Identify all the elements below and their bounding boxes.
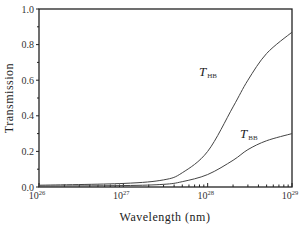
plot-frame <box>39 9 292 187</box>
x-tick-label: 1026 <box>29 189 46 201</box>
y-tick-label: 0.8 <box>22 39 35 50</box>
label-t-bb: TBB <box>240 126 258 142</box>
x-tick-label: 1028 <box>197 189 214 201</box>
curves <box>39 32 292 186</box>
label-t-hb: THB <box>199 64 217 80</box>
y-tick-label: 0.2 <box>22 146 35 157</box>
x-tick-label: 1029 <box>282 189 299 201</box>
y-axis-title: Transmission <box>2 63 16 133</box>
curve-t-hb <box>39 32 292 185</box>
plot-border <box>39 9 292 187</box>
x-tick-label: 1027 <box>113 189 130 201</box>
x-axis-title: Wavelength (nm) <box>120 210 211 224</box>
y-tick-label: 0.6 <box>22 75 35 86</box>
transmission-chart: 0.00.20.40.60.81.0 1026102710281029 THBT… <box>0 0 304 230</box>
y-tick-label: 1.0 <box>22 4 35 15</box>
curve-labels: THBTBB <box>199 64 258 142</box>
y-tick-label: 0.4 <box>22 110 35 121</box>
y-axis: 0.00.20.40.60.81.0 <box>22 4 40 193</box>
